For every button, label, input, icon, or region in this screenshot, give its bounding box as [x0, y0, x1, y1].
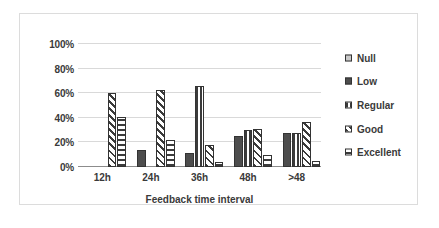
y-axis-tick-label: 80% — [40, 63, 74, 74]
legend-swatch-regular-icon — [345, 102, 352, 109]
bar-36h-regular — [195, 86, 204, 167]
x-axis: 12h24h36h48h>48 — [78, 172, 321, 186]
bar-24h-null — [127, 166, 136, 167]
legend-label: Low — [357, 76, 377, 87]
legend-swatch-low-icon — [345, 78, 352, 85]
legend-label: Null — [357, 52, 376, 63]
x-axis-tick-label--48: >48 — [288, 172, 305, 183]
bar-12h-excellent — [117, 117, 126, 167]
y-axis-tick-label: 20% — [40, 137, 74, 148]
y-axis-tick-label: 0% — [40, 162, 74, 173]
legend-item-null[interactable]: Null — [345, 52, 376, 63]
legend-item-good[interactable]: Good — [345, 123, 383, 134]
bar-36h-null — [176, 166, 185, 167]
bar-12h-null — [79, 166, 88, 167]
bar-48h-null — [224, 166, 233, 167]
bar-24h-regular — [147, 166, 156, 167]
legend-item-excellent[interactable]: Excellent — [345, 147, 401, 158]
bar--48-excellent — [312, 161, 321, 167]
legend-swatch-null-icon — [345, 54, 352, 61]
legend-label: Regular — [357, 100, 394, 111]
bar--48-regular — [292, 133, 301, 167]
bar-group-12h — [78, 44, 127, 167]
bar-12h-regular — [98, 166, 107, 167]
bar-group--48 — [272, 44, 321, 167]
bar-24h-good — [156, 90, 165, 167]
legend-item-low[interactable]: Low — [345, 76, 377, 87]
bar-48h-low — [234, 136, 243, 167]
bar--48-good — [302, 122, 311, 168]
bar-group-48h — [224, 44, 273, 167]
bar-36h-good — [205, 145, 214, 167]
bar-36h-excellent — [215, 162, 224, 167]
bar-24h-excellent — [166, 140, 175, 167]
x-axis-title: Feedback time interval — [78, 194, 321, 205]
legend-swatch-good-icon — [345, 125, 352, 132]
chart-legend: NullLowRegularGoodExcellent — [345, 46, 429, 164]
y-axis-tick-label: 100% — [40, 39, 74, 50]
x-axis-tick-label-24h: 24h — [142, 172, 159, 183]
plot-area — [78, 44, 321, 167]
bar-48h-regular — [244, 130, 253, 167]
legend-swatch-excellent-icon — [345, 149, 352, 156]
legend-label: Excellent — [357, 147, 401, 158]
x-axis-tick-label-36h: 36h — [191, 172, 208, 183]
bar-12h-good — [108, 93, 117, 167]
bar-36h-low — [185, 153, 194, 167]
bar-48h-good — [253, 129, 262, 167]
y-axis-tick-label: 40% — [40, 112, 74, 123]
y-axis-tick-label: 60% — [40, 88, 74, 99]
x-axis-tick-label-12h: 12h — [94, 172, 111, 183]
bar-12h-low — [88, 166, 97, 167]
bar-24h-low — [137, 150, 146, 167]
y-axis: 0%20%40%60%80%100% — [40, 44, 74, 167]
bar-48h-excellent — [263, 155, 272, 167]
legend-label: Good — [357, 123, 383, 134]
x-axis-tick-label-48h: 48h — [239, 172, 256, 183]
chart-frame: 0%20%40%60%80%100% 12h24h36h48h>48 Feedb… — [19, 13, 418, 205]
bar-group-24h — [127, 44, 176, 167]
legend-item-regular[interactable]: Regular — [345, 100, 394, 111]
bar-group-36h — [175, 44, 224, 167]
bar--48-null — [273, 166, 282, 167]
bar--48-low — [283, 133, 292, 167]
